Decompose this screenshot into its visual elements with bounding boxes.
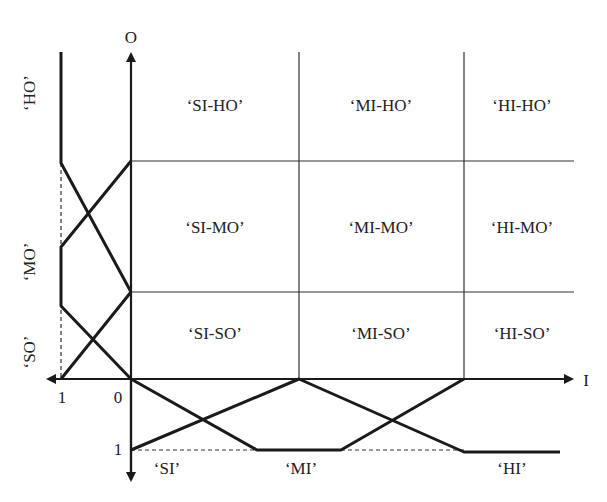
cell-hi-mo: ‘HI-MO’ bbox=[491, 218, 553, 238]
input-axis-label: I bbox=[583, 371, 589, 391]
input-set-si: ‘SI’ bbox=[154, 459, 180, 479]
cell-hi-ho: ‘HI-HO’ bbox=[492, 96, 551, 116]
output-axis-label: O bbox=[125, 28, 137, 48]
output-set-so: ‘SO’ bbox=[20, 335, 40, 368]
axes bbox=[48, 54, 572, 480]
output-set-mo: ‘MO’ bbox=[20, 243, 40, 282]
cell-si-ho: ‘SI-HO’ bbox=[187, 96, 244, 116]
fuzzy-membership-diagram bbox=[0, 0, 607, 502]
cell-mi-mo: ‘MI-MO’ bbox=[348, 218, 413, 238]
cell-mi-ho: ‘MI-HO’ bbox=[350, 96, 412, 116]
output-tick-one: 1 bbox=[58, 388, 67, 408]
cell-mi-so: ‘MI-SO’ bbox=[351, 324, 411, 344]
cell-si-mo: ‘SI-MO’ bbox=[185, 218, 245, 238]
output-tick-zero: 0 bbox=[114, 388, 123, 408]
output-set-ho: ‘HO’ bbox=[20, 75, 40, 111]
output-membership-curves bbox=[61, 52, 131, 379]
si-mi-curve bbox=[131, 379, 464, 450]
input-set-hi: ‘HI’ bbox=[497, 459, 526, 479]
input-set-mi: ‘MI’ bbox=[285, 459, 317, 479]
cell-si-so: ‘SI-SO’ bbox=[188, 324, 242, 344]
input-membership-curves bbox=[131, 379, 560, 452]
cell-hi-so: ‘HI-SO’ bbox=[494, 324, 551, 344]
input-tick-one: 1 bbox=[114, 440, 123, 460]
